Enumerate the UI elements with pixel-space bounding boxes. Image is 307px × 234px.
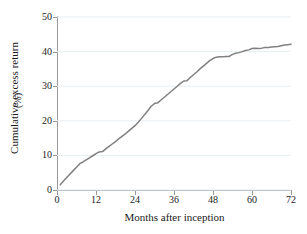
y-axis-tick [53,155,57,156]
y-axis-tick [53,121,57,122]
x-axis-tick-label: 0 [44,195,70,205]
gridlines [57,17,291,190]
y-axis-title-unit: (%) [12,81,23,121]
x-axis-tick-label: 12 [83,195,109,205]
x-axis-tick-label: 36 [161,195,187,205]
chart-figure: 01020304050 0122436486072 Cumulative exc… [0,0,307,234]
plot-svg [57,17,291,190]
x-axis-tick-label: 60 [239,195,265,205]
y-axis-tick [53,17,57,18]
series-line-cumulative-excess-return [60,44,291,184]
plot-area [57,17,291,190]
y-axis-tick [53,52,57,53]
x-axis-tick-label: 72 [278,195,304,205]
x-axis-tick-label: 48 [200,195,226,205]
x-axis-title: Months after inception [57,211,292,223]
y-axis-tick [53,86,57,87]
x-axis-tick-label: 24 [122,195,148,205]
cropped-text-artifact [36,0,146,5]
